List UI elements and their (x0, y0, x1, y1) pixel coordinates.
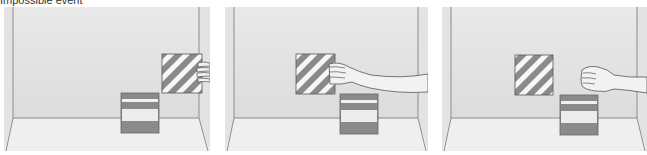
striped-box (340, 94, 378, 134)
scene-panel-3 (442, 7, 647, 151)
striped-box (121, 93, 159, 133)
scene-3-drawing (442, 7, 647, 151)
scene-2-drawing (225, 7, 428, 151)
figure-caption: Impossible event (0, 0, 83, 6)
scene-panel-2 (225, 7, 428, 151)
scene-panel-1 (4, 7, 210, 151)
scene-1-drawing (4, 7, 210, 151)
striped-box (560, 95, 598, 135)
floor (4, 118, 210, 151)
striped-screen (162, 54, 202, 93)
striped-screen (515, 55, 553, 95)
